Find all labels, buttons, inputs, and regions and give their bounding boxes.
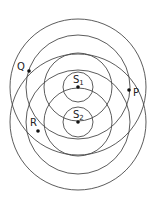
point-dot-p bbox=[127, 88, 131, 92]
source-label-s2: S2 bbox=[73, 109, 84, 122]
labels: S1S2QPR bbox=[17, 61, 139, 128]
point-dot-r bbox=[36, 129, 40, 133]
point-dot-q bbox=[27, 69, 31, 73]
source-label-s1: S1 bbox=[73, 74, 84, 87]
point-label-r: R bbox=[30, 117, 37, 128]
wavefront-circles bbox=[10, 19, 146, 190]
point-label-p: P bbox=[133, 87, 139, 98]
point-label-q: Q bbox=[17, 61, 25, 72]
interference-diagram: S1S2QPR bbox=[0, 0, 155, 202]
